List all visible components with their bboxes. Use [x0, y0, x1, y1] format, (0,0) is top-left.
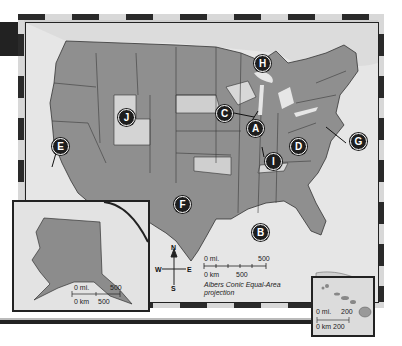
main-scale-km-max: 500 [236, 271, 248, 278]
compass-west: W [155, 266, 162, 273]
bottom-rule [0, 318, 312, 324]
marker-f[interactable]: F [174, 196, 191, 213]
main-scale-mi-label: 0 mi. [204, 255, 219, 262]
compass-south: S [171, 285, 176, 292]
marker-e[interactable]: E [52, 138, 69, 155]
hawaii-scale-km-label: 0 km [316, 323, 331, 330]
marker-b[interactable]: B [252, 224, 269, 241]
main-scale-bar [204, 263, 266, 269]
projection-line-2: projection [204, 289, 281, 297]
alaska-landmass [14, 202, 148, 310]
projection-label: Albers Conic Equal-Area projection [204, 281, 281, 297]
alaska-inset: 0 mi. 500 0 km 500 [12, 200, 150, 312]
marker-j[interactable]: J [118, 109, 135, 126]
alaska-scale-km-label: 0 km [74, 298, 89, 305]
alaska-scale-km-max: 500 [98, 298, 110, 305]
projection-line-1: Albers Conic Equal-Area [204, 281, 281, 289]
compass-rose [162, 249, 186, 285]
alaska-scale-mi-label: 0 mi. [74, 284, 89, 291]
marker-c[interactable]: C [216, 105, 233, 122]
main-scale-mi-max: 500 [258, 255, 270, 262]
marker-h[interactable]: H [254, 55, 271, 72]
marker-i[interactable]: I [265, 153, 282, 170]
alaska-scale-mi-max: 500 [110, 284, 122, 291]
hawaii-scale-km-max: 200 [333, 323, 345, 330]
marker-g[interactable]: G [350, 133, 367, 150]
compass-north: N [171, 244, 176, 251]
hawaii-inset: 0 mi. 200 0 km 200 [311, 276, 375, 337]
state-nebraska [176, 95, 221, 113]
marker-a[interactable]: A [247, 120, 264, 137]
marker-d[interactable]: D [290, 138, 307, 155]
hawaii-scale-mi-max: 200 [341, 308, 353, 315]
compass-east: E [187, 266, 192, 273]
main-scale-km-label: 0 km [204, 271, 219, 278]
hawaii-scale-mi-label: 0 mi. [316, 308, 331, 315]
